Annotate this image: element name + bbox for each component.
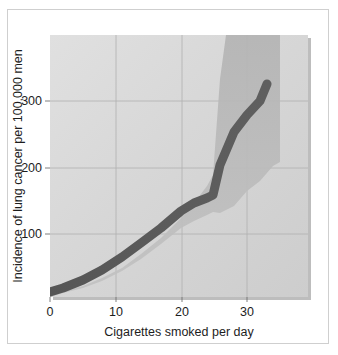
x-axis-title: Cigarettes smoked per day [104, 325, 254, 339]
xtick-label-20: 20 [175, 305, 189, 319]
figure-container: 0 10 20 30 100 200 300 Cigarettes smoked… [0, 0, 338, 355]
y-axis-title: Incidence of lung cancer per 100,000 men [11, 49, 25, 283]
xtick-label-0: 0 [47, 305, 54, 319]
xtick-label-30: 30 [240, 305, 254, 319]
line-chart: 0 10 20 30 100 200 300 Cigarettes smoked… [0, 0, 338, 355]
xtick-label-10: 10 [109, 305, 123, 319]
